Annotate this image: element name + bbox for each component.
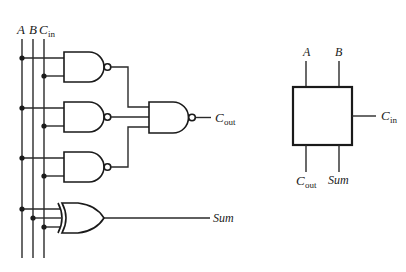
cout-label-sub: out [224,117,236,127]
input-buses [22,39,44,258]
label-a: A [16,22,25,37]
junction-dot [41,173,46,178]
junction-dot [41,123,46,128]
block-cin-sub: in [390,115,398,125]
inverter-bubble [189,114,196,121]
block-cout-sub: out [305,180,317,190]
label-cin-main: C [39,22,48,37]
junction-dot [19,55,24,60]
full-adder-diagram: A B C in [0,0,406,272]
block-cout-main: C [296,173,305,188]
block-label-a: A [302,45,311,59]
sum-label: Sum [213,211,234,225]
input-labels: A B C in [16,22,56,39]
junction-dot [19,206,24,211]
block-label-b: B [335,45,343,59]
inverter-bubble [104,114,111,121]
output-nand-gate: C out [149,102,236,133]
junction-dot [41,224,46,229]
nand-gate-3 [19,127,149,182]
xor-gate: Sum [19,203,234,233]
junction-dot [19,105,24,110]
label-b: B [29,22,37,37]
adder-box [293,87,352,145]
full-adder-block: A B C in C out Sum [293,45,398,190]
inverter-bubble [104,164,111,171]
junction-dot [19,155,24,160]
junction-dot [30,215,35,220]
nand-gate-1 [19,52,149,107]
cout-label-main: C [215,110,224,125]
block-sum-label: Sum [328,173,349,187]
label-cin-sub: in [48,29,56,39]
junction-dot [41,73,46,78]
block-cin-main: C [381,108,390,123]
inverter-bubble [104,64,111,71]
